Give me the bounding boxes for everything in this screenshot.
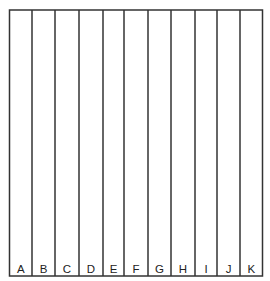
strip-label-h: H	[179, 263, 187, 275]
strip-label-g: G	[155, 263, 164, 275]
partitioned-square-diagram: ABCDEFGHIJK	[0, 0, 270, 281]
strip-label-f: F	[132, 263, 139, 275]
strip-label-a: A	[17, 263, 25, 275]
strip-label-c: C	[63, 263, 71, 275]
strip-label-d: D	[87, 263, 95, 275]
strip-label-e: E	[110, 263, 118, 275]
strip-dividers	[32, 10, 240, 276]
strip-labels: ABCDEFGHIJK	[17, 263, 256, 275]
strip-label-i: I	[204, 263, 207, 275]
strip-label-j: J	[226, 263, 232, 275]
outer-box	[10, 10, 263, 276]
strip-label-b: B	[40, 263, 48, 275]
strip-label-k: K	[247, 263, 255, 275]
